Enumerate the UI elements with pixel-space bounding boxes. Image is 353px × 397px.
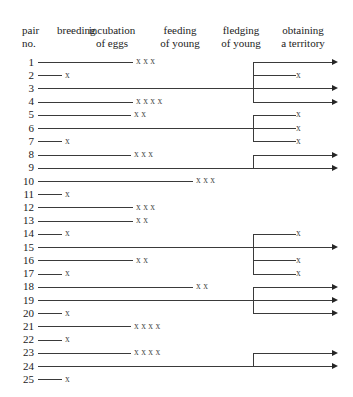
- progress-line-row-24: [38, 366, 253, 367]
- progress-line-row-1: [38, 62, 133, 63]
- failure-marks-row-20: x: [65, 309, 70, 319]
- progress-line-row-14: [38, 234, 62, 235]
- progress-line-row-6: [38, 128, 253, 129]
- row-label-9: 9: [8, 162, 34, 173]
- row-label-17: 17: [8, 268, 34, 279]
- failure-marks-row-14: x: [65, 229, 70, 239]
- progress-line-row-13: [38, 221, 133, 222]
- row-label-3: 3: [8, 83, 34, 94]
- bracket-failure-mark-row-2: x: [296, 71, 301, 81]
- progress-line-row-15: [38, 247, 253, 248]
- row-label-15: 15: [8, 242, 34, 253]
- progress-line-row-21: [38, 326, 131, 327]
- row-label-14: 14: [8, 228, 34, 239]
- arrow-head-row-8: [332, 152, 338, 158]
- bracket-failure-mark-row-5: x: [296, 110, 301, 120]
- row-label-18: 18: [8, 281, 34, 292]
- failure-marks-row-18: x x: [196, 282, 208, 292]
- arrow-head-row-19: [332, 297, 338, 303]
- row-label-19: 19: [8, 295, 34, 306]
- row-label-7: 7: [8, 136, 34, 147]
- failure-marks-row-23: x x x x: [134, 348, 160, 358]
- bracket-failure-mark-row-14: x: [296, 229, 301, 239]
- bracket-spine-D: [253, 234, 254, 274]
- bracket-branch-A-row-2: [253, 75, 296, 76]
- row-label-16: 16: [8, 255, 34, 266]
- bracket-branch-D-row-17: [253, 274, 296, 275]
- row-label-4: 4: [8, 96, 34, 107]
- failure-marks-row-4: x x x x: [136, 97, 162, 107]
- progress-line-row-9: [38, 168, 253, 169]
- failure-marks-row-8: x x x: [134, 150, 153, 160]
- progress-line-row-11: [38, 194, 62, 195]
- progress-line-row-17: [38, 274, 62, 275]
- progress-line-row-25: [38, 379, 62, 380]
- failure-marks-row-10: x x x: [196, 176, 215, 186]
- progress-line-row-2: [38, 75, 62, 76]
- failure-marks-row-21: x x x x: [134, 322, 160, 332]
- row-label-23: 23: [8, 347, 34, 358]
- chart-plot-area: 1x x x2x34x x x x5x x67x8x x x910x x x11…: [0, 0, 353, 397]
- failure-marks-row-2: x: [65, 71, 70, 81]
- arrow-head-row-3: [332, 85, 338, 91]
- row-label-13: 13: [8, 215, 34, 226]
- bracket-branch-B-row-6: [253, 128, 296, 129]
- progress-line-row-23: [38, 353, 131, 354]
- bracket-spine-A: [253, 62, 254, 102]
- arrow-head-row-23: [332, 350, 338, 356]
- figure-root: pairno.breeding incubationof eggsfeeding…: [0, 0, 353, 397]
- row-label-8: 8: [8, 149, 34, 160]
- failure-marks-row-22: x: [65, 335, 70, 345]
- progress-line-row-18: [38, 287, 193, 288]
- row-label-5: 5: [8, 109, 34, 120]
- failure-marks-row-13: x x: [136, 216, 148, 226]
- arrow-head-row-9: [332, 165, 338, 171]
- row-label-21: 21: [8, 321, 34, 332]
- progress-line-row-7: [38, 141, 62, 142]
- bracket-branch-A-row-4: [253, 102, 332, 103]
- row-label-20: 20: [8, 308, 34, 319]
- row-label-10: 10: [8, 176, 34, 187]
- arrow-head-row-1: [332, 59, 338, 65]
- arrow-head-row-4: [332, 99, 338, 105]
- bracket-branch-C-row-9: [253, 168, 332, 169]
- bracket-branch-B-row-7: [253, 141, 296, 142]
- failure-marks-row-7: x: [65, 137, 70, 147]
- bracket-branch-E-row-18: [253, 287, 332, 288]
- failure-marks-row-5: x x: [134, 110, 146, 120]
- progress-line-row-3: [38, 88, 253, 89]
- bracket-branch-D-row-14: [253, 234, 296, 235]
- progress-line-row-10: [38, 181, 193, 182]
- bracket-failure-mark-row-17: x: [296, 269, 301, 279]
- failure-marks-row-16: x x: [136, 256, 148, 266]
- row-label-25: 25: [8, 374, 34, 385]
- arrow-head-row-20: [332, 310, 338, 316]
- progress-line-row-22: [38, 340, 62, 341]
- bracket-branch-C-row-8: [253, 155, 332, 156]
- failure-marks-row-12: x x x: [136, 203, 155, 213]
- row-label-24: 24: [8, 361, 34, 372]
- row-label-1: 1: [8, 57, 34, 68]
- progress-line-row-16: [38, 260, 133, 261]
- arrow-head-row-24: [332, 363, 338, 369]
- progress-line-row-5: [38, 115, 131, 116]
- bracket-branch-D-row-15: [253, 247, 332, 248]
- progress-line-row-4: [38, 102, 133, 103]
- row-label-2: 2: [8, 70, 34, 81]
- progress-line-row-12: [38, 207, 133, 208]
- row-label-12: 12: [8, 202, 34, 213]
- failure-marks-row-17: x: [65, 269, 70, 279]
- bracket-spine-C: [253, 155, 254, 168]
- bracket-branch-A-row-3: [253, 88, 332, 89]
- bracket-branch-E-row-20: [253, 313, 332, 314]
- bracket-branch-A-row-1: [253, 62, 332, 63]
- row-label-11: 11: [8, 189, 34, 200]
- row-label-22: 22: [8, 334, 34, 345]
- bracket-branch-E-row-19: [253, 300, 332, 301]
- failure-marks-row-25: x: [65, 375, 70, 385]
- bracket-spine-F: [253, 353, 254, 366]
- arrow-head-row-15: [332, 244, 338, 250]
- progress-line-row-19: [38, 300, 253, 301]
- arrow-head-row-18: [332, 284, 338, 290]
- progress-line-row-20: [38, 313, 62, 314]
